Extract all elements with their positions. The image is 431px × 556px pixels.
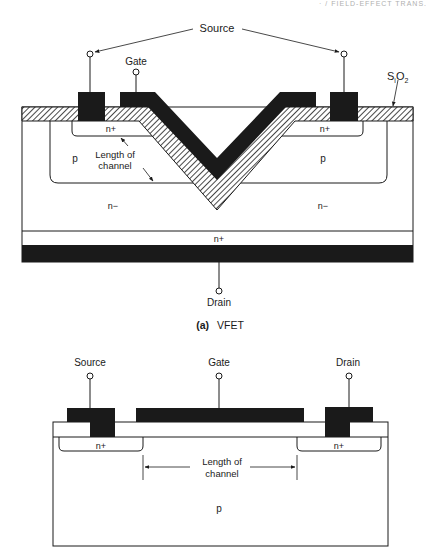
mosfet-length-label-line2: channel [205,468,238,479]
vfet-nplus-left-label: n+ [106,124,116,134]
mosfet-nplus-right-label: n+ [334,441,344,451]
vfet-p-left-label: p [72,153,78,164]
mosfet-source-label: Source [74,357,106,368]
mosfet-drain-terminal [346,373,352,379]
vfet-source-terminal-left [87,51,93,57]
mosfet-drain-label: Drain [336,357,360,368]
vfet-nminus-right-label: n− [318,201,328,211]
vfet-drain-metal [22,245,413,262]
vfet-length-label-line2: channel [98,160,131,171]
vfet-nplus-bottom-label: n+ [214,234,224,244]
mosfet-gate-terminal [216,373,222,379]
vfet-length-label-line1: Length of [95,149,135,160]
mosfet-nplus-left-label: n+ [96,441,106,451]
vfet-caption: (a)VFET [196,319,244,331]
mosfet-length-label-line1: Length of [202,456,242,467]
vfet-sio2-label: SiO2 [387,70,408,84]
mosfet-source-terminal [87,373,93,379]
vfet-gate-label: Gate [125,56,147,67]
vfet-nminus-left-label: n− [108,201,118,211]
vfet-source-terminal-right [341,51,347,57]
vfet-source-arrow-right [242,29,339,52]
vfet-source-label: Source [200,22,235,34]
vfet-source-metal-right [330,92,358,121]
vfet-source-metal-left [78,92,105,121]
vfet-drain-terminal [216,288,222,294]
mosfet-gate-metal [136,408,304,422]
vfet-p-right-label: p [320,153,326,164]
vfet-mosfet-figure: Source Gate SiO2 n+ n+ p p Length of cha… [0,0,431,556]
mosfet-diagram: Source Gate Drain n+ n+ Length of channe… [53,357,388,546]
vfet-diagram: Source Gate SiO2 n+ n+ p p Length of cha… [22,22,413,331]
vfet-nplus-right-label: n+ [320,124,330,134]
vfet-source-arrow-left [95,29,193,52]
vfet-gate-terminal [133,69,139,75]
vfet-drain-label: Drain [207,297,231,308]
mosfet-p-label: p [216,503,222,514]
mosfet-gate-label: Gate [208,357,230,368]
